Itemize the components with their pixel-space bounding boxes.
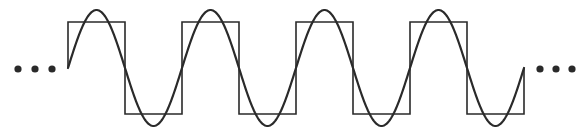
ellipsis-dot-right-1 [536, 65, 543, 72]
continuation-dots-left [14, 65, 55, 72]
continuation-dots-right [536, 65, 575, 72]
ellipsis-dot-left-3 [48, 65, 55, 72]
ellipsis-dot-left-2 [31, 65, 38, 72]
square-sine-diagram [0, 0, 586, 137]
ellipsis-dot-right-3 [568, 65, 575, 72]
ellipsis-dot-right-2 [552, 65, 559, 72]
ellipsis-dot-left-1 [14, 65, 21, 72]
